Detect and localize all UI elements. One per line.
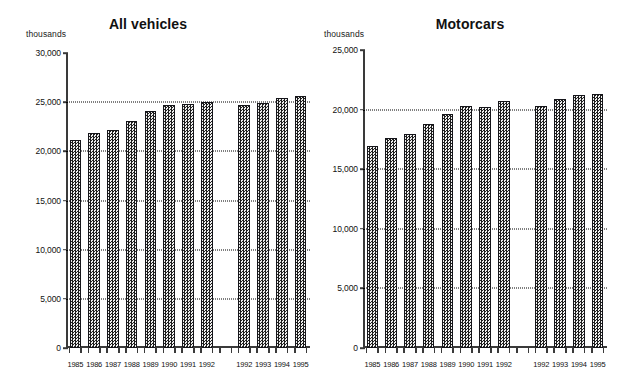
x-tick-mark-all-vehicles xyxy=(174,347,176,353)
x-tick-mark-all-vehicles xyxy=(137,347,139,353)
bar-all-vehicles-1993-10 xyxy=(257,103,269,348)
x-tick-label-all-vehicles: 1986 xyxy=(86,360,102,369)
x-tick-label-all-vehicles: 1994 xyxy=(274,360,290,369)
y-tick-mark-all-vehicles xyxy=(63,151,68,153)
x-tick-mark-all-vehicles xyxy=(106,347,108,353)
y-tick-label-motorcars: 10,000 xyxy=(333,224,358,234)
x-tick-mark-all-vehicles xyxy=(80,347,82,353)
x-tick-mark-motorcars xyxy=(497,347,499,353)
x-tick-label-motorcars: 1995 xyxy=(590,360,606,369)
x-tick-label-all-vehicles: 1991 xyxy=(180,360,196,369)
bar-motorcars-1995-12 xyxy=(592,94,604,348)
x-tick-mark-motorcars xyxy=(516,347,518,353)
y-tick-mark-all-vehicles xyxy=(63,101,68,103)
x-tick-mark-all-vehicles xyxy=(88,347,90,353)
x-tick-mark-motorcars xyxy=(603,347,605,353)
chart-panel-motorcars: thousands Motorcars 05,00010,00015,00020… xyxy=(321,0,642,387)
x-tick-mark-all-vehicles xyxy=(268,347,270,353)
y-axis-line-right xyxy=(363,50,365,348)
x-tick-label-motorcars: 1992 xyxy=(533,360,549,369)
x-tick-mark-all-vehicles xyxy=(238,347,240,353)
bar-all-vehicles-1995-12 xyxy=(295,96,307,348)
y-tick-mark-all-vehicles xyxy=(63,249,68,251)
x-tick-mark-motorcars xyxy=(415,347,417,353)
bar-motorcars-1988-3 xyxy=(423,124,435,348)
x-tick-mark-motorcars xyxy=(565,347,567,353)
x-tick-mark-all-vehicles xyxy=(294,347,296,353)
y-tick-mark-motorcars xyxy=(360,49,365,51)
bar-motorcars-1990-5 xyxy=(460,106,472,348)
bar-motorcars-1987-2 xyxy=(404,134,416,348)
y-tick-label-motorcars: 25,000 xyxy=(333,45,358,55)
bar-all-vehicles-1988-3 xyxy=(126,121,138,348)
y-tick-label-all-vehicles: 25,000 xyxy=(36,97,61,107)
x-tick-mark-motorcars xyxy=(377,347,379,353)
bar-motorcars-1991-6 xyxy=(479,107,491,348)
bar-all-vehicles-1989-4 xyxy=(145,111,157,348)
x-tick-mark-motorcars xyxy=(441,347,443,353)
x-tick-mark-motorcars xyxy=(403,347,405,353)
y-tick-mark-motorcars xyxy=(360,228,365,230)
y-tick-mark-all-vehicles xyxy=(63,347,68,349)
x-tick-mark-all-vehicles xyxy=(163,347,165,353)
y-tick-mark-motorcars xyxy=(360,168,365,170)
x-tick-mark-all-vehicles xyxy=(118,347,120,353)
x-tick-label-motorcars: 1992 xyxy=(496,360,512,369)
plot-area-motorcars: 05,00010,00015,00020,00025,0001985198619… xyxy=(363,50,607,348)
x-tick-mark-motorcars xyxy=(490,347,492,353)
y-tick-mark-motorcars xyxy=(360,109,365,111)
x-tick-label-motorcars: 1989 xyxy=(440,360,456,369)
figure-two-bar-charts: thousands All vehicles 05,00010,00015,00… xyxy=(0,0,642,387)
x-tick-label-all-vehicles: 1985 xyxy=(67,360,83,369)
x-tick-label-all-vehicles: 1992 xyxy=(236,360,252,369)
x-tick-mark-all-vehicles xyxy=(125,347,127,353)
x-tick-mark-motorcars xyxy=(452,347,454,353)
x-tick-mark-motorcars xyxy=(385,347,387,353)
x-tick-mark-motorcars xyxy=(553,347,555,353)
x-tick-mark-motorcars xyxy=(528,347,530,353)
bar-motorcars-1993-10 xyxy=(554,99,566,348)
bar-all-vehicles-1992-9 xyxy=(238,105,250,348)
bar-all-vehicles-1994-11 xyxy=(276,98,288,348)
y-tick-mark-motorcars xyxy=(360,288,365,290)
bar-motorcars-1992-7 xyxy=(498,101,510,348)
x-tick-mark-motorcars xyxy=(535,347,537,353)
y-tick-label-all-vehicles: 10,000 xyxy=(36,245,61,255)
x-tick-mark-motorcars xyxy=(591,347,593,353)
y-tick-label-all-vehicles: 20,000 xyxy=(36,146,61,156)
x-tick-label-motorcars: 1988 xyxy=(421,360,437,369)
x-tick-mark-all-vehicles xyxy=(181,347,183,353)
x-tick-mark-all-vehicles xyxy=(193,347,195,353)
x-tick-label-motorcars: 1993 xyxy=(552,360,568,369)
y-tick-mark-motorcars xyxy=(360,347,365,349)
y-tick-label-all-vehicles: 0 xyxy=(56,343,61,353)
x-tick-label-motorcars: 1985 xyxy=(364,360,380,369)
x-tick-label-all-vehicles: 1992 xyxy=(199,360,215,369)
y-tick-mark-all-vehicles xyxy=(63,298,68,300)
x-tick-label-motorcars: 1994 xyxy=(571,360,587,369)
y-tick-label-all-vehicles: 15,000 xyxy=(36,196,61,206)
y-tick-label-motorcars: 20,000 xyxy=(333,105,358,115)
y-tick-mark-all-vehicles xyxy=(63,200,68,202)
x-tick-mark-all-vehicles xyxy=(306,347,308,353)
x-tick-label-all-vehicles: 1995 xyxy=(293,360,309,369)
x-tick-mark-motorcars xyxy=(509,347,511,353)
y-tick-label-all-vehicles: 5,000 xyxy=(40,294,61,304)
x-tick-label-motorcars: 1987 xyxy=(402,360,418,369)
x-tick-mark-motorcars xyxy=(546,347,548,353)
bar-motorcars-1985-0 xyxy=(367,146,379,348)
bar-motorcars-1989-4 xyxy=(442,114,454,348)
x-tick-label-motorcars: 1990 xyxy=(458,360,474,369)
y-tick-label-motorcars: 5,000 xyxy=(337,283,358,293)
x-tick-label-all-vehicles: 1987 xyxy=(105,360,121,369)
bar-all-vehicles-1987-2 xyxy=(107,130,119,348)
x-tick-mark-motorcars xyxy=(471,347,473,353)
y-tick-mark-all-vehicles xyxy=(63,52,68,54)
x-tick-label-motorcars: 1986 xyxy=(383,360,399,369)
bar-all-vehicles-1985-0 xyxy=(70,140,82,348)
x-tick-mark-all-vehicles xyxy=(287,347,289,353)
x-tick-mark-motorcars xyxy=(366,347,368,353)
chart-title-motorcars: Motorcars xyxy=(335,16,605,32)
x-tick-mark-all-vehicles xyxy=(212,347,214,353)
x-tick-label-motorcars: 1991 xyxy=(477,360,493,369)
